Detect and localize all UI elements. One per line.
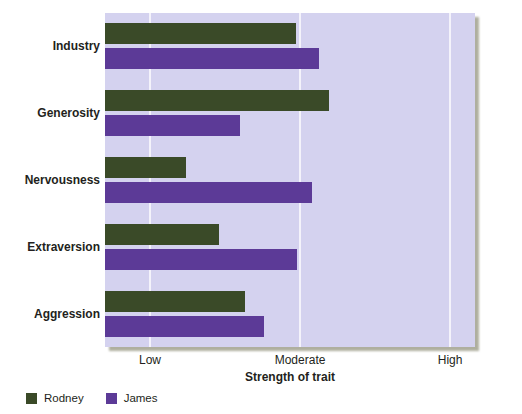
category-label-generosity: Generosity bbox=[2, 106, 100, 120]
bar-generosity-rodney bbox=[105, 90, 329, 111]
legend-item-rodney: Rodney bbox=[26, 392, 84, 404]
bar-extraversion-james bbox=[105, 249, 297, 270]
x-tick-label-moderate: Moderate bbox=[275, 353, 326, 367]
x-tick-label-high: High bbox=[438, 353, 463, 367]
legend-item-james: James bbox=[106, 392, 158, 404]
bar-extraversion-rodney bbox=[105, 224, 219, 245]
x-axis-title: Strength of trait bbox=[105, 370, 475, 384]
bar-generosity-james bbox=[105, 115, 240, 136]
x-axis-tick-labels: LowModerateHigh bbox=[105, 353, 475, 371]
legend-swatch-icon bbox=[106, 393, 117, 404]
bar-industry-james bbox=[105, 48, 319, 69]
plot-area bbox=[105, 13, 475, 347]
bar-nervousness-james bbox=[105, 182, 312, 203]
chart-legend: RodneyJames bbox=[26, 392, 158, 404]
gridline-high bbox=[449, 13, 451, 347]
category-label-extraversion: Extraversion bbox=[2, 240, 100, 254]
category-label-nervousness: Nervousness bbox=[2, 173, 100, 187]
bar-industry-rodney bbox=[105, 23, 296, 44]
category-axis-labels: IndustryGenerosityNervousnessExtraversio… bbox=[0, 13, 100, 347]
bar-aggression-rodney bbox=[105, 291, 245, 312]
legend-swatch-icon bbox=[26, 393, 37, 404]
legend-label: James bbox=[124, 392, 158, 404]
legend-label: Rodney bbox=[44, 392, 84, 404]
bar-nervousness-rodney bbox=[105, 157, 186, 178]
bar-aggression-james bbox=[105, 316, 264, 337]
category-label-aggression: Aggression bbox=[2, 307, 100, 321]
bar-chart-figure: IndustryGenerosityNervousnessExtraversio… bbox=[0, 0, 522, 414]
category-label-industry: Industry bbox=[2, 39, 100, 53]
x-tick-label-low: Low bbox=[139, 353, 161, 367]
